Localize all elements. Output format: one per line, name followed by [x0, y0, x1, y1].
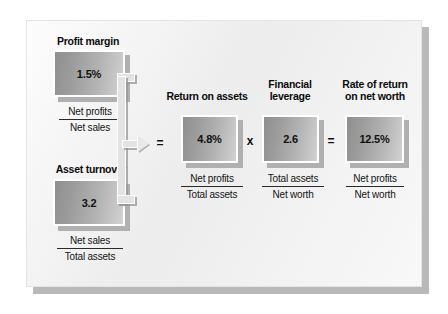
fraction-numerator: Total assets	[252, 172, 334, 186]
fraction-rate-of-return: Net profits Net worth	[335, 172, 415, 201]
fraction-denominator: Total assets	[45, 250, 135, 263]
value-box-asset-turnover: 3.2	[53, 179, 125, 226]
fraction-rule	[57, 248, 123, 249]
box-face: 1.5%	[53, 50, 125, 97]
diagram-canvas: Profit margin 1.5% Net profits Net sales…	[0, 0, 448, 314]
fraction-denominator: Net worth	[335, 188, 415, 201]
fraction-denominator: Net worth	[252, 188, 334, 201]
operator-equals-left: =	[153, 136, 167, 150]
value-box-financial-leverage: 2.6	[262, 115, 319, 163]
box-face: 2.6	[262, 115, 319, 163]
connector-bottom-arm	[117, 195, 135, 204]
fraction-numerator: Net profits	[335, 172, 415, 186]
fraction-financial-leverage: Total assets Net worth	[252, 172, 334, 201]
value-box-profit-margin: 1.5%	[53, 50, 125, 97]
value-financial-leverage: 2.6	[283, 133, 298, 145]
box-face: 4.8%	[181, 115, 238, 163]
fraction-rule	[346, 186, 404, 187]
value-profit-margin: 1.5%	[77, 68, 101, 80]
heading-profit-margin: Profit margin	[33, 35, 143, 47]
heading-asset-turnover: Asset turnover	[33, 163, 149, 175]
box-face: 3.2	[53, 179, 125, 226]
fraction-numerator: Net sales	[45, 234, 135, 248]
fraction-numerator: Net profits	[171, 172, 253, 186]
fraction-rule	[59, 119, 121, 120]
fraction-return-on-assets: Net profits Total assets	[171, 172, 253, 201]
value-box-rate-of-return: 12.5%	[345, 115, 404, 163]
value-rate-of-return: 12.5%	[359, 133, 389, 145]
operator-times: x	[243, 134, 257, 148]
fraction-asset-turnover: Net sales Total assets	[45, 234, 135, 263]
heading-rate-of-return: Rate of return on net worth	[323, 78, 427, 102]
value-box-return-on-assets: 4.8%	[181, 115, 238, 163]
fraction-rule	[262, 186, 324, 187]
fraction-denominator: Total assets	[171, 188, 253, 201]
diagram-panel: Profit margin 1.5% Net profits Net sales…	[26, 20, 422, 287]
fraction-rule	[181, 186, 243, 187]
value-asset-turnover: 3.2	[82, 197, 97, 209]
value-return-on-assets: 4.8%	[197, 133, 221, 145]
connector-arrowhead-icon	[138, 136, 149, 152]
box-face: 12.5%	[345, 115, 404, 163]
operator-equals-right: =	[324, 134, 338, 148]
